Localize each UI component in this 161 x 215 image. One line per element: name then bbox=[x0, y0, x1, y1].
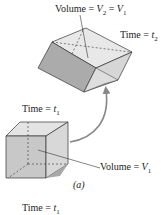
original-cube bbox=[6, 122, 100, 178]
bottom-time-label: Time = t1 bbox=[22, 104, 60, 117]
cube-front-face bbox=[6, 136, 46, 178]
equals: = bbox=[106, 3, 117, 14]
time-prefix: Time = bbox=[22, 103, 53, 114]
bottom-volume-label: Volume = V1 bbox=[100, 162, 151, 175]
volume-prefix: Volume = bbox=[55, 3, 97, 14]
time-prefix: Time = bbox=[120, 29, 151, 40]
time-subscript: 1 bbox=[56, 109, 60, 117]
volume-subscript: 1 bbox=[123, 9, 127, 17]
top-time-label: Time = t2 bbox=[120, 30, 158, 43]
footer-time-label: Time = t1 bbox=[22, 203, 60, 215]
deformation-arrow bbox=[70, 90, 107, 142]
time-subscript: 2 bbox=[154, 35, 158, 43]
time-subscript: 1 bbox=[56, 208, 60, 215]
time-prefix: Time = bbox=[22, 202, 53, 213]
top-volume-label: Volume = V2 = V1 bbox=[55, 4, 126, 17]
figure-caption: (a) bbox=[73, 180, 85, 190]
volume-prefix: Volume = bbox=[100, 161, 142, 172]
caption-text: (a) bbox=[73, 179, 85, 190]
deformed-element bbox=[38, 15, 132, 92]
volume-subscript: 1 bbox=[148, 167, 152, 175]
